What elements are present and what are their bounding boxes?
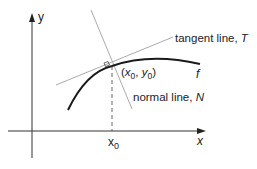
x0-label: x0 <box>108 135 119 151</box>
curve-label: f <box>196 67 201 81</box>
y-axis-label: y <box>38 10 44 24</box>
point-label: (x0, y0) <box>121 66 156 81</box>
tangent-normal-diagram: y x x0 (x0, y0) tangent line, T normal l… <box>0 0 257 169</box>
normal-line-label: normal line, N <box>133 91 205 103</box>
y-axis-arrow-icon <box>29 13 35 22</box>
normal-line <box>91 10 132 109</box>
x-axis-label: x <box>196 134 204 148</box>
tangent-line-label: tangent line, T <box>175 32 249 44</box>
